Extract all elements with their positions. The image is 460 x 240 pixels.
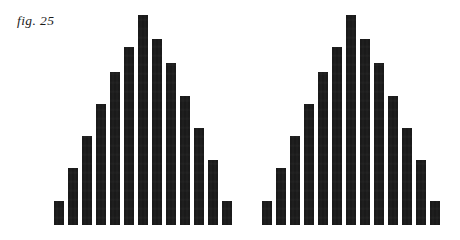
histogram-bar — [318, 72, 328, 225]
histogram-bar — [276, 168, 286, 225]
histogram-bar — [430, 201, 440, 225]
histogram-bar — [222, 201, 232, 225]
histogram-bar — [290, 136, 300, 225]
figure-canvas: fig. 25 — [0, 0, 460, 240]
histogram-bar — [346, 15, 356, 225]
left-histogram — [54, 15, 238, 225]
histogram-bar — [402, 128, 412, 225]
histogram-bar — [194, 128, 204, 225]
figure-caption-label: fig. 25 — [17, 13, 54, 29]
histogram-bar — [152, 39, 162, 225]
histogram-bar — [138, 15, 148, 225]
histogram-bar — [360, 39, 370, 225]
histogram-bar — [304, 104, 314, 225]
right-histogram — [262, 15, 443, 225]
histogram-bar — [82, 136, 92, 225]
histogram-bar — [124, 47, 134, 225]
histogram-bar — [262, 201, 272, 225]
histogram-bar — [96, 104, 106, 225]
histogram-bar — [166, 63, 176, 225]
histogram-bar — [388, 96, 398, 225]
histogram-bar — [208, 160, 218, 225]
histogram-bar — [332, 47, 342, 225]
histogram-bar — [110, 72, 120, 225]
histogram-bar — [180, 96, 190, 225]
histogram-bar — [374, 63, 384, 225]
histogram-bar — [416, 160, 426, 225]
histogram-bar — [68, 168, 78, 225]
histogram-bar — [54, 201, 64, 225]
